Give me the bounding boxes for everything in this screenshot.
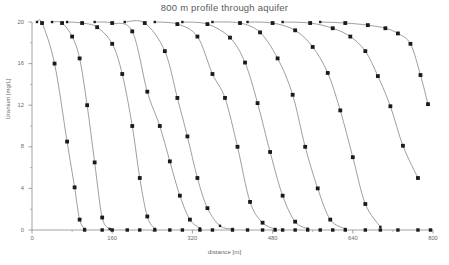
data-point: [293, 228, 296, 231]
data-point: [328, 218, 332, 222]
data-point: [331, 228, 334, 231]
data-point: [291, 93, 295, 97]
data-point: [261, 221, 265, 225]
data-point: [331, 26, 335, 30]
y-tick-label: 20: [2, 19, 24, 25]
data-point: [145, 215, 149, 219]
data-point: [198, 228, 201, 231]
data-point: [78, 57, 82, 61]
data-point: [426, 102, 430, 106]
data-point: [388, 104, 392, 108]
data-point: [319, 21, 321, 23]
data-series: [181, 21, 309, 230]
data-point: [120, 72, 124, 76]
data-point: [308, 21, 312, 25]
data-point: [138, 228, 141, 231]
data-point: [211, 72, 215, 76]
data-point: [143, 21, 147, 25]
data-point: [379, 228, 382, 231]
data-point: [126, 228, 129, 231]
data-point: [219, 225, 221, 227]
y-tick-label: 4: [2, 185, 24, 191]
data-point: [246, 21, 248, 23]
data-point: [206, 22, 210, 26]
data-point: [158, 124, 162, 128]
data-point: [93, 21, 95, 23]
data-point: [181, 21, 183, 23]
x-tick-label: 0: [17, 235, 47, 241]
data-point: [110, 21, 114, 25]
data-point: [261, 228, 264, 231]
data-point: [110, 42, 114, 46]
data-point: [130, 29, 134, 33]
data-point: [409, 42, 413, 46]
data-point: [363, 202, 367, 206]
y-tick-label: 16: [2, 60, 24, 66]
y-tick-label: 0: [2, 227, 24, 233]
data-point: [60, 21, 64, 25]
data-series: [211, 21, 346, 230]
data-point: [228, 36, 232, 40]
data-point: [100, 216, 104, 220]
data-point: [175, 96, 179, 100]
data-point: [53, 62, 57, 66]
data-point: [281, 21, 283, 23]
data-point: [206, 206, 210, 210]
data-point: [366, 23, 370, 27]
series-layer: [36, 20, 430, 230]
data-point: [306, 228, 309, 231]
data-point: [185, 135, 189, 139]
data-series: [281, 21, 419, 180]
data-point: [238, 21, 242, 25]
data-point: [429, 228, 432, 231]
data-series: [93, 21, 201, 230]
data-point: [248, 200, 252, 204]
data-point: [65, 140, 69, 144]
x-tick-label: 320: [177, 235, 207, 241]
data-point: [211, 228, 214, 231]
data-point: [111, 228, 114, 231]
data-point: [95, 25, 99, 29]
data-point: [343, 21, 347, 25]
data-point: [196, 176, 200, 180]
data-point: [396, 228, 399, 231]
x-tick-label: 480: [258, 235, 288, 241]
data-series: [246, 21, 381, 228]
x-tick-label: 640: [338, 235, 368, 241]
y-axis-label: Uranium [mg/L]: [5, 64, 11, 134]
figure-caption-strip: [0, 259, 449, 265]
data-point: [293, 220, 297, 224]
data-point: [100, 228, 103, 231]
data-point: [236, 145, 240, 149]
data-point: [363, 49, 367, 53]
data-point: [188, 218, 192, 222]
data-series: [51, 21, 111, 230]
data-point: [273, 228, 276, 231]
y-tick-label: 8: [2, 143, 24, 149]
data-point: [303, 145, 307, 149]
x-tick-label: 800: [418, 235, 448, 241]
data-point: [196, 35, 200, 39]
data-point: [124, 21, 126, 23]
data-point: [383, 26, 387, 30]
data-point: [223, 96, 227, 100]
data-point: [138, 176, 142, 180]
data-point: [311, 45, 315, 49]
data-series: [36, 20, 86, 230]
data-point: [211, 21, 213, 23]
data-point: [271, 21, 275, 25]
data-point: [231, 228, 234, 231]
data-point: [351, 155, 355, 159]
data-point: [168, 159, 172, 163]
data-point: [175, 22, 179, 26]
data-point: [364, 228, 367, 231]
data-point: [51, 21, 53, 23]
data-point: [268, 150, 272, 154]
data-point: [93, 161, 97, 165]
y-tick-label: 12: [2, 102, 24, 108]
data-point: [83, 228, 86, 231]
data-point: [326, 71, 330, 75]
data-point: [396, 32, 400, 36]
data-point: [181, 228, 184, 231]
data-point: [348, 35, 352, 39]
